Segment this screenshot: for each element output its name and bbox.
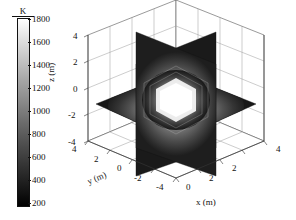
y-tick-label: -4 [156,183,164,192]
colorbar-tick [28,157,31,158]
colorbar-tick [28,111,31,112]
colorbar-unit-label: K [12,6,34,17]
y-tick-label: 2 [94,155,99,164]
colorbar-tick-label: 1600 [32,38,50,47]
colorbar-tick [28,65,31,66]
x-tick-label: 2 [232,164,237,173]
colorbar-tick-label: 800 [32,130,46,139]
colorbar[interactable] [17,18,30,207]
z-axis-title: z (m) [47,63,56,82]
colorbar-tick [28,180,31,181]
y-tick-label: 4 [72,145,77,154]
z-tick-label: -2 [68,111,76,120]
x-tick-label: 2 [209,174,214,183]
colorbar-tick-label: 1200 [32,84,50,93]
colorbar-tick-label: 600 [32,153,46,162]
colorbar-tick [28,134,31,135]
colorbar-tick [28,42,31,43]
z-tick-label: 0 [73,85,78,94]
colorbar-tick [28,88,31,89]
z-tick-label: 2 [73,58,78,67]
colorbar-tick [28,203,31,204]
z-tick-label: 4 [73,32,78,41]
colorbar-tick-label: 400 [32,176,46,185]
colorbar-tick-label: 1000 [32,107,50,116]
y-tick-label: -2 [134,174,142,183]
colorbar-tick-label: 1800 [32,15,50,24]
colorbar-tick-label: 200 [32,199,46,208]
x-tick-label: 4 [276,145,281,154]
y-tick-label: 0 [117,164,122,173]
colorbar-tick [28,19,31,20]
x-axis-title: x (m) [196,198,216,207]
x-tick-label: 0 [186,183,191,192]
